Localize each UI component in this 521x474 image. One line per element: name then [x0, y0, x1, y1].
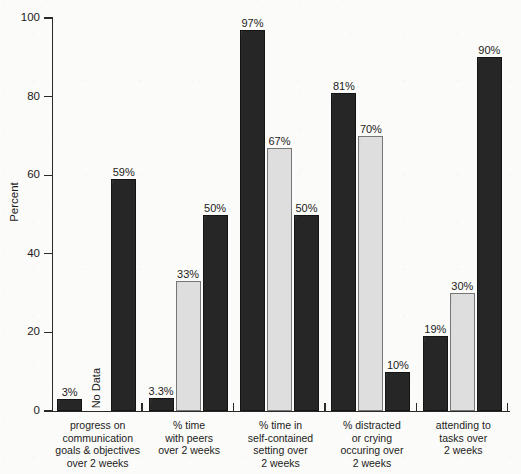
x-axis-category-label: attending totasks over2 weeks [393, 419, 521, 457]
bar: 10% [385, 372, 410, 411]
y-axis-tick-label: 100 [2, 12, 40, 24]
bar-value-label: 70% [360, 124, 382, 135]
bar-value-label: 10% [387, 360, 409, 371]
category-label-line: tasks over [393, 432, 521, 445]
y-axis-tick-label: 0 [2, 405, 40, 417]
bar: 97% [240, 30, 265, 411]
bar-value-label: 19% [424, 324, 446, 335]
category-label-line: 2 weeks [393, 444, 521, 457]
y-axis-tick-label: 20 [2, 326, 40, 338]
bar: 81% [331, 93, 356, 411]
bar-value-label: 81% [333, 81, 355, 92]
bar-value-label: 3.3% [149, 386, 174, 397]
bar: 67% [267, 148, 292, 411]
bar-value-label: 67% [268, 136, 290, 147]
bar-chart: Percent 020406080100 3%No Data59%3.3%33%… [0, 0, 521, 474]
bar: 50% [203, 215, 228, 412]
category-label-line: over 2 weeks [28, 457, 168, 470]
y-axis-tick-label: 60 [2, 169, 40, 181]
bar: 90% [477, 57, 502, 411]
no-data-annotation: No Data [91, 368, 102, 408]
bar-value-label: 30% [451, 281, 473, 292]
y-axis-tick-label: 80 [2, 91, 40, 103]
bar-value-label: 59% [113, 167, 135, 178]
bar: 30% [450, 293, 475, 411]
plot-area: 3%No Data59%3.3%33%50%97%67%50%81%70%10%… [52, 18, 509, 411]
bar: 3.3% [149, 398, 174, 411]
bar-value-label: 50% [204, 203, 226, 214]
bar: 50% [294, 215, 319, 412]
bar: 70% [358, 136, 383, 411]
bar: 19% [423, 336, 448, 411]
bar: 33% [176, 281, 201, 411]
bar-value-label: 50% [295, 203, 317, 214]
category-label-line: attending to [393, 419, 521, 432]
category-label-line: 2 weeks [302, 457, 442, 470]
bar-value-label: 97% [241, 18, 263, 29]
bar: 59% [111, 179, 136, 411]
bar-value-label: 90% [478, 45, 500, 56]
bar: 3% [57, 399, 82, 411]
y-axis-tick-label: 40 [2, 248, 40, 260]
bar-value-label: 33% [177, 269, 199, 280]
bar-value-label: 3% [62, 387, 78, 398]
x-axis-line [52, 411, 510, 412]
